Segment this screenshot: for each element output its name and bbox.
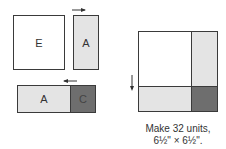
patch-a-strip-vertical: A: [73, 15, 99, 70]
arrow-right-icon: [70, 6, 88, 14]
patch-a-label: A: [82, 37, 89, 49]
quadrant-bottom-left: [139, 87, 192, 111]
quadrant-bottom-right: [192, 87, 217, 111]
patch-c-label: C: [79, 93, 87, 105]
arrow-left-icon: [61, 77, 79, 85]
quadrant-top-right: [192, 32, 217, 87]
patch-e-label: E: [35, 37, 42, 49]
patch-a-horizontal: A: [18, 86, 71, 112]
quadrant-top-left: [139, 32, 192, 87]
strip-a-c: A C: [17, 85, 96, 113]
result-block: [138, 31, 218, 112]
caption: Make 32 units, 6½" × 6½".: [130, 123, 226, 147]
arrow-down-icon: [128, 73, 136, 93]
caption-line-2: 6½" × 6½".: [130, 135, 226, 147]
patch-e: E: [13, 15, 65, 70]
patch-c: C: [71, 86, 95, 112]
patch-a-label: A: [40, 93, 47, 105]
caption-line-1: Make 32 units,: [130, 123, 226, 135]
